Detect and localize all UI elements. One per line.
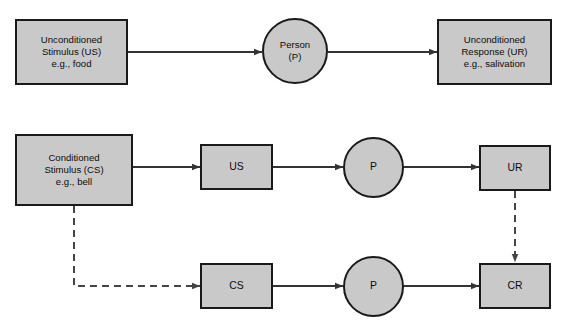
node-line: e.g., salivation xyxy=(441,58,548,70)
node-line: CS xyxy=(204,280,269,293)
node-line: Stimulus (CS) xyxy=(19,164,129,176)
node-line: CR xyxy=(483,280,547,293)
classical-conditioning-diagram: Unconditioned Stimulus (US) e.g., food P… xyxy=(0,0,567,333)
node-line: Person xyxy=(266,39,324,51)
node-line: Unconditioned xyxy=(441,34,548,46)
node-unconditioned-stimulus[interactable]: Unconditioned Stimulus (US) e.g., food xyxy=(15,19,128,85)
node-us-short[interactable]: US xyxy=(200,144,273,190)
node-line: Stimulus (US) xyxy=(19,46,124,58)
node-line: UR xyxy=(483,162,547,175)
node-line: US xyxy=(204,161,269,174)
node-cs-short[interactable]: CS xyxy=(200,263,273,309)
connector-csfull-to-cs-dashed xyxy=(74,206,200,286)
node-line: e.g., food xyxy=(19,58,124,70)
node-person-row3[interactable]: P xyxy=(343,256,404,317)
node-cr-short[interactable]: CR xyxy=(479,263,551,309)
node-ur-short[interactable]: UR xyxy=(479,145,551,191)
node-line: Conditioned xyxy=(19,152,129,164)
node-line: Unconditioned xyxy=(19,34,124,46)
node-conditioned-stimulus[interactable]: Conditioned Stimulus (CS) e.g., bell xyxy=(15,134,133,206)
node-person-top[interactable]: Person (P) xyxy=(262,18,328,84)
node-line: P xyxy=(347,280,400,293)
node-unconditioned-response[interactable]: Unconditioned Response (UR) e.g., saliva… xyxy=(437,19,552,85)
node-line: e.g., bell xyxy=(19,176,129,188)
node-line: (P) xyxy=(266,51,324,63)
node-line: P xyxy=(347,161,400,174)
node-line: Response (UR) xyxy=(441,46,548,58)
node-person-row2[interactable]: P xyxy=(343,137,404,198)
